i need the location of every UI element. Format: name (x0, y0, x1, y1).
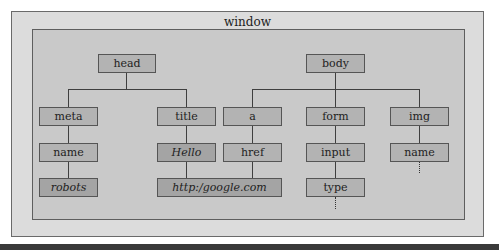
node-img: img (390, 107, 449, 126)
node-title: title (157, 107, 216, 126)
connector (126, 72, 127, 90)
connector (419, 125, 420, 143)
node-head: head (98, 54, 156, 73)
connector (252, 89, 253, 107)
page-bottom-edge (0, 244, 499, 250)
node-meta: meta (39, 107, 98, 126)
connector (68, 161, 69, 178)
node-a-href: href (223, 143, 282, 162)
continuation-dots (419, 162, 420, 173)
node-input: input (306, 143, 365, 162)
node-href-value: http:/google.com (157, 178, 282, 197)
connector (186, 161, 187, 178)
node-img-name: name (390, 143, 449, 162)
connector (252, 161, 253, 178)
connector (335, 125, 336, 143)
node-title-value: Hello (157, 143, 216, 162)
connector (252, 89, 420, 90)
connector (252, 125, 253, 143)
window-label: window (12, 15, 483, 29)
node-input-type: type (306, 178, 365, 197)
node-meta-name: name (39, 143, 98, 162)
connector (335, 161, 336, 178)
connector (68, 89, 69, 107)
connector (419, 89, 420, 107)
connector (68, 125, 69, 143)
node-a: a (223, 107, 282, 126)
connector (186, 89, 187, 107)
node-form: form (306, 107, 365, 126)
connector (68, 89, 186, 90)
continuation-dots (335, 197, 336, 209)
connector (186, 125, 187, 143)
node-body: body (306, 54, 365, 73)
node-meta-value: robots (39, 178, 98, 197)
